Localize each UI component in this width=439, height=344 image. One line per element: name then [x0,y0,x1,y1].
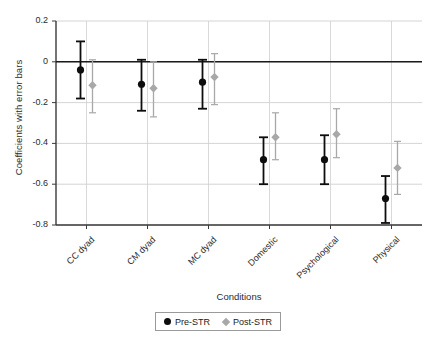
data-point-group [381,176,390,223]
circle-marker-icon [164,318,171,325]
data-point-group [149,62,157,117]
data-point-marker [138,81,145,88]
chart-legend: Pre-STR Post-STR [155,312,281,331]
data-point-marker [271,133,279,141]
data-point-marker [199,79,206,86]
legend-item-pre-str: Pre-STR [164,317,210,327]
data-point-group [271,113,279,160]
y-tick-label: 0.2 [18,15,48,25]
data-point-group [76,41,85,98]
data-point-group [137,60,146,111]
y-tick-label: -0.2 [18,97,48,107]
data-point-group [393,141,401,194]
data-point-group [198,60,207,109]
data-point-group [88,60,96,113]
data-point-marker [77,66,84,73]
data-point-group [332,109,340,158]
legend-label-pre-str: Pre-STR [175,317,210,327]
y-tick-label: -0.6 [18,178,48,188]
data-point-marker [88,81,96,89]
data-point-marker [260,156,267,163]
data-point-marker [321,156,328,163]
legend-label-post-str: Post-STR [233,317,272,327]
data-point-marker [382,195,389,202]
data-point-marker [149,84,157,92]
data-point-group [320,135,329,184]
data-point-marker [393,164,401,172]
data-point-marker [332,130,340,138]
y-tick-label: -0.4 [18,137,48,147]
chart-figure: Coefficients with error bars Conditions … [0,0,439,344]
data-point-marker [210,73,218,81]
data-point-group [259,137,268,184]
legend-item-post-str: Post-STR [223,317,272,327]
y-tick-label: -0.8 [18,219,48,229]
diamond-marker-icon [222,317,230,325]
y-tick-label: 0 [18,56,48,66]
